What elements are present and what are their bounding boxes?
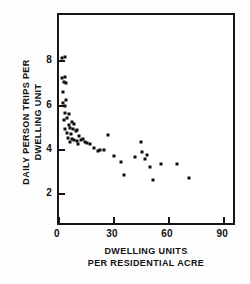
data-point (64, 112, 67, 115)
data-point (63, 55, 66, 58)
data-point (92, 146, 95, 149)
y-tick (59, 149, 65, 151)
data-point (176, 163, 179, 166)
data-point (123, 174, 126, 177)
data-point (70, 133, 73, 136)
data-point (141, 150, 144, 153)
data-point (65, 99, 68, 102)
x-axis-title-line2: PER RESIDENTIAL ACRE (57, 257, 235, 269)
data-point (69, 140, 72, 143)
x-tick-label: 60 (161, 228, 173, 239)
y-tick (59, 105, 65, 107)
x-axis-title: DWELLING UNITS PER RESIDENTIAL ACRE (57, 245, 235, 269)
x-axis-title-line1: DWELLING UNITS (57, 245, 235, 257)
data-point (134, 156, 137, 159)
x-tick-label: 0 (54, 228, 60, 239)
figure: 0306090 2468 DWELLING UNITS PER RESIDENT… (0, 0, 250, 284)
data-point (99, 148, 102, 151)
data-point (159, 163, 162, 166)
data-point (144, 157, 147, 160)
data-point (188, 177, 191, 180)
y-tick (59, 193, 65, 195)
data-point (62, 91, 65, 94)
data-point (66, 132, 69, 135)
data-point (67, 136, 70, 139)
data-point (146, 154, 149, 157)
y-axis-title-line1: DAILY PERSON TRIPS PER (20, 42, 32, 202)
data-point (64, 82, 67, 85)
x-tick (58, 217, 60, 223)
plot-area (57, 13, 235, 225)
y-tick (59, 60, 65, 62)
data-point (148, 166, 151, 169)
data-point (151, 178, 154, 181)
data-point (113, 155, 116, 158)
data-point (89, 143, 92, 146)
data-point (77, 143, 80, 146)
data-point (73, 123, 76, 126)
data-point (139, 140, 142, 143)
y-axis-title-line2: DWELLING UNIT (32, 42, 44, 202)
x-tick (168, 217, 170, 223)
x-tick (113, 217, 115, 223)
data-point (106, 134, 109, 137)
data-point (66, 116, 69, 119)
data-point (63, 127, 66, 130)
data-point (102, 148, 105, 151)
x-tick (223, 217, 225, 223)
x-tick-label: 30 (106, 228, 118, 239)
y-axis-title: DAILY PERSON TRIPS PER DWELLING UNIT (20, 42, 44, 202)
scatter-points-layer (59, 15, 233, 223)
data-point (120, 160, 123, 163)
x-tick-label: 90 (216, 228, 228, 239)
data-point (63, 75, 66, 78)
data-point (76, 128, 79, 131)
